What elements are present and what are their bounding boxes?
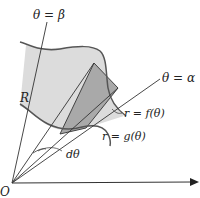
label-outer-curve: r = f(θ) [124,107,165,120]
polar-axis [12,182,192,183]
label-theta-beta: θ = β [33,8,65,22]
axis-arrowhead-icon [190,178,199,186]
label-theta-alpha: θ = α [162,71,195,85]
label-dtheta: dθ [66,148,80,161]
label-origin: O [0,185,10,198]
polar-area-diagram: θ = β θ = α R r = f(θ) r = g(θ) dθ O [0,0,200,198]
label-inner-curve: r = g(θ) [102,130,146,143]
label-region-r: R [19,91,29,105]
